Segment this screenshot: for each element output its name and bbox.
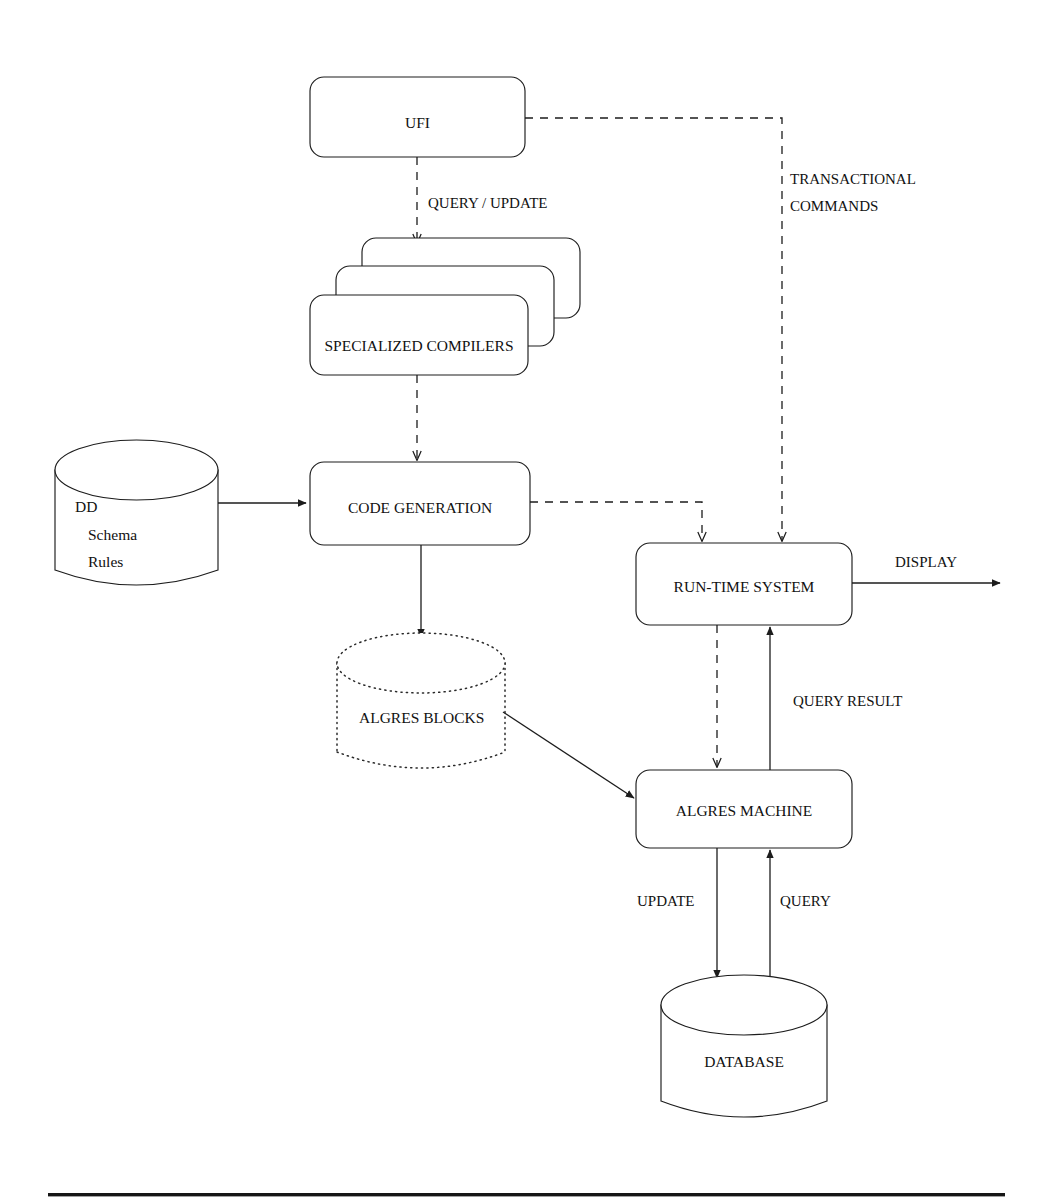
edge-database-to-machine: QUERY [770, 850, 831, 978]
edge-label-update: UPDATE [637, 893, 695, 909]
footer-rule-line [48, 1193, 1005, 1196]
node-algres-machine-label: ALGRES MACHINE [676, 802, 813, 819]
node-dd-store-label-dd: DD [75, 498, 97, 515]
node-compilers-box-front[interactable] [310, 295, 528, 375]
edge-label-commands: COMMANDS [790, 198, 878, 214]
node-dd-store[interactable]: DD Schema Rules [55, 440, 218, 585]
edge-machine-to-database: UPDATE [637, 848, 717, 978]
node-dd-store-label-rules: Rules [88, 553, 123, 570]
diagram-canvas-root: QUERY / UPDATE TRANSACTIONAL COMMANDS DI… [0, 0, 1046, 1203]
node-ufi-label: UFI [405, 114, 430, 131]
edge-ufi-to-runtime: TRANSACTIONAL COMMANDS [525, 118, 916, 541]
edge-ufi-to-compilers: QUERY / UPDATE [417, 157, 547, 243]
footer-divider [48, 1193, 1005, 1196]
node-dd-store-label-schema: Schema [88, 526, 137, 543]
node-algres-blocks-bottom [337, 752, 505, 768]
node-ufi[interactable]: UFI [310, 77, 525, 157]
architecture-diagram: QUERY / UPDATE TRANSACTIONAL COMMANDS DI… [0, 0, 1046, 1203]
node-code-generation-label: CODE GENERATION [348, 499, 492, 516]
node-run-time-system-label: RUN-TIME SYSTEM [674, 578, 815, 595]
node-database[interactable]: DATABASE [661, 975, 827, 1117]
node-run-time-system[interactable]: RUN-TIME SYSTEM [636, 543, 852, 625]
node-algres-blocks-label: ALGRES BLOCKS [359, 709, 484, 726]
node-specialized-compilers[interactable]: SPECIALIZED COMPILERS [310, 238, 580, 375]
node-algres-machine[interactable]: ALGRES MACHINE [636, 770, 852, 848]
node-algres-blocks-top[interactable] [337, 633, 505, 693]
node-database-label: DATABASE [704, 1053, 784, 1070]
node-algres-blocks[interactable]: ALGRES BLOCKS [337, 633, 505, 768]
node-dd-store-top [55, 440, 218, 500]
node-compilers-label: SPECIALIZED COMPILERS [324, 337, 513, 354]
node-database-top [661, 975, 827, 1035]
edge-label-query: QUERY [780, 893, 831, 909]
edge-label-query-update: QUERY / UPDATE [428, 195, 547, 211]
edge-runtime-to-display: DISPLAY [852, 554, 1000, 583]
node-code-generation[interactable]: CODE GENERATION [310, 462, 530, 545]
edge-label-query-result: QUERY RESULT [793, 693, 902, 709]
edge-label-display: DISPLAY [895, 554, 957, 570]
edge-codegen-to-runtime [530, 502, 702, 541]
edge-blocks-to-machine [503, 712, 634, 798]
edge-label-transactional: TRANSACTIONAL [790, 171, 916, 187]
edge-machine-to-runtime: QUERY RESULT [770, 627, 902, 790]
